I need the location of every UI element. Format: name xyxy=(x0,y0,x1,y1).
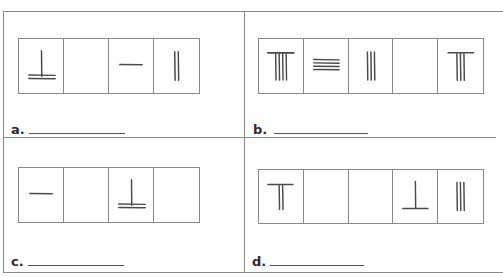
rod-strip-d xyxy=(258,169,484,224)
answer-b: b. xyxy=(253,123,368,136)
answer-line-b[interactable] xyxy=(274,133,368,134)
two-vertical-icon xyxy=(154,39,199,93)
rod-cell-d-4 xyxy=(393,170,438,223)
empty-icon xyxy=(304,170,348,223)
empty-icon xyxy=(154,168,199,222)
rod-strip-a xyxy=(18,38,200,94)
two-vertical-top-bar-icon xyxy=(259,170,303,223)
rod-strip-b xyxy=(258,38,484,94)
rod-cell-c-4 xyxy=(154,168,199,222)
problem-label-d: d. xyxy=(252,255,266,268)
answer-d: d. xyxy=(252,255,364,268)
three-vertical-icon xyxy=(438,170,483,223)
rod-cell-d-5 xyxy=(438,170,483,223)
one-vertical-two-horizontal-base-icon xyxy=(109,168,153,222)
rod-cell-c-3 xyxy=(109,168,154,222)
rod-cell-a-3 xyxy=(109,39,154,93)
rod-cell-b-2 xyxy=(304,39,349,93)
empty-icon xyxy=(64,168,108,222)
rod-cell-b-1 xyxy=(259,39,304,93)
rod-cell-d-2 xyxy=(304,170,349,223)
three-vertical-top-bar-icon xyxy=(438,39,483,93)
answer-line-d[interactable] xyxy=(270,265,364,266)
rod-cell-d-3 xyxy=(349,170,394,223)
one-horizontal-icon xyxy=(19,168,63,222)
empty-icon xyxy=(349,170,393,223)
horizontal-divider xyxy=(3,137,496,138)
rod-cell-b-5 xyxy=(438,39,483,93)
rod-cell-c-2 xyxy=(64,168,109,222)
problem-label-c: c. xyxy=(11,255,24,268)
answer-line-c[interactable] xyxy=(28,265,124,266)
one-vertical-two-horizontal-base-icon xyxy=(19,39,63,93)
one-vertical-one-horizontal-base-icon xyxy=(393,170,437,223)
empty-icon xyxy=(64,39,108,93)
rod-cell-b-4 xyxy=(393,39,438,93)
problem-label-a: a. xyxy=(11,123,25,136)
answer-c: c. xyxy=(11,255,124,268)
four-horizontal-icon xyxy=(304,39,348,93)
rod-cell-b-3 xyxy=(349,39,394,93)
rod-cell-a-1 xyxy=(19,39,64,93)
problem-label-b: b. xyxy=(253,123,267,136)
rod-cell-c-1 xyxy=(19,168,64,222)
rod-cell-a-2 xyxy=(64,39,109,93)
empty-icon xyxy=(393,39,437,93)
clipped-header-text: · · · · · xyxy=(22,0,57,4)
rod-cell-a-4 xyxy=(154,39,199,93)
answer-a: a. xyxy=(11,123,125,136)
three-vertical-icon xyxy=(349,39,393,93)
four-vertical-top-bar-icon xyxy=(259,39,303,93)
rod-cell-d-1 xyxy=(259,170,304,223)
answer-line-a[interactable] xyxy=(29,133,125,134)
vertical-divider xyxy=(244,11,245,273)
one-horizontal-icon xyxy=(109,39,153,93)
rod-strip-c xyxy=(18,167,200,223)
